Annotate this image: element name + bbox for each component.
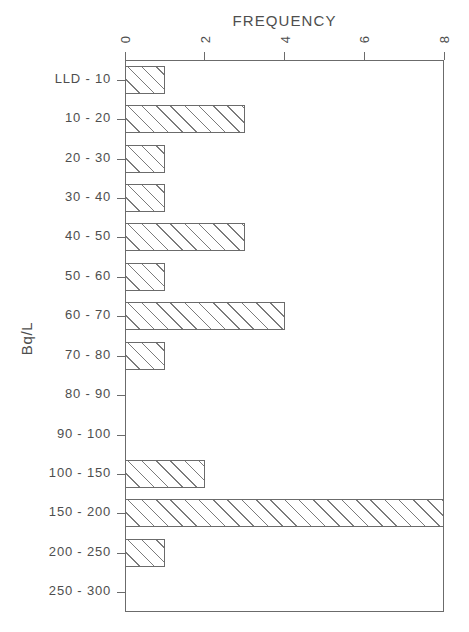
y-axis-tick-label: LLD - 10	[0, 71, 111, 86]
x-axis-tick-label: 0	[118, 30, 133, 50]
x-axis-tick	[444, 52, 445, 60]
y-axis-tick	[117, 159, 125, 160]
x-axis-tick	[125, 52, 126, 60]
x-axis-tick	[284, 52, 285, 60]
y-axis-tick	[117, 553, 125, 554]
y-axis-tick-label: 30 - 40	[0, 189, 111, 204]
y-axis-tick	[117, 592, 125, 593]
y-axis-tick	[117, 356, 125, 357]
bar	[125, 263, 165, 291]
bar	[125, 460, 205, 488]
y-axis-tick	[117, 395, 125, 396]
y-axis-tick-label: 40 - 50	[0, 228, 111, 243]
y-axis-tick	[117, 316, 125, 317]
y-axis-tick-label: 200 - 250	[0, 544, 111, 559]
plot-area	[125, 60, 444, 612]
y-axis-tick-label: 50 - 60	[0, 268, 111, 283]
bar	[125, 539, 165, 567]
bar	[125, 302, 285, 330]
y-axis-tick-label: 60 - 70	[0, 307, 111, 322]
bar	[125, 499, 444, 527]
bar	[125, 223, 245, 251]
x-axis-tick-label: 2	[197, 30, 212, 50]
y-axis-tick-label: 100 - 150	[0, 465, 111, 480]
y-axis-tick	[117, 198, 125, 199]
x-axis-tick-label: 8	[437, 30, 452, 50]
bar	[125, 184, 165, 212]
y-axis-tick-label: 10 - 20	[0, 110, 111, 125]
bar	[125, 342, 165, 370]
x-axis-tick-label: 4	[277, 30, 292, 50]
y-axis-tick	[117, 119, 125, 120]
y-axis-tick-label: 20 - 30	[0, 150, 111, 165]
y-axis-tick	[117, 435, 125, 436]
frequency-histogram-chart: FREQUENCY Bq/L 02468 LLD - 1010 - 2020 -…	[0, 0, 469, 632]
x-axis-tick-label: 6	[357, 30, 372, 50]
y-axis-tick	[117, 80, 125, 81]
y-axis-tick	[117, 474, 125, 475]
y-axis-tick	[117, 513, 125, 514]
x-axis-tick	[204, 52, 205, 60]
bar	[125, 145, 165, 173]
y-axis-tick-label: 70 - 80	[0, 347, 111, 362]
bar	[125, 66, 165, 94]
y-axis-tick-label: 90 - 100	[0, 426, 111, 441]
y-axis-tick-label: 150 - 200	[0, 504, 111, 519]
y-axis-tick	[117, 277, 125, 278]
y-axis-tick	[117, 237, 125, 238]
y-axis-tick-label: 250 - 300	[0, 583, 111, 598]
x-axis-tick	[364, 52, 365, 60]
chart-title: FREQUENCY	[125, 12, 444, 29]
bar	[125, 105, 245, 133]
y-axis-tick-label: 80 - 90	[0, 386, 111, 401]
